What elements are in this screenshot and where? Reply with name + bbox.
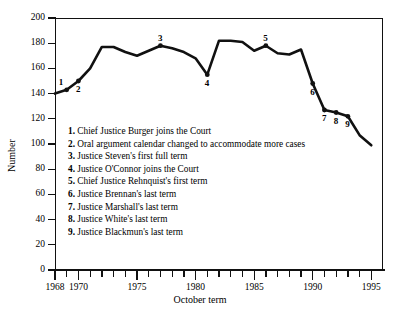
annotation-number: 4 [205, 79, 210, 88]
legend-item-number: 4. [68, 164, 77, 174]
legend-item-number: 8. [68, 214, 77, 224]
legend-item: 7. Justice Marshall's last term [68, 201, 318, 214]
legend-item-number: 2. [68, 139, 77, 149]
legend-item: 8. Justice White's last term [68, 213, 318, 226]
annotation-number: 6 [310, 88, 315, 97]
legend-item-label: Oral argument calendar changed to accomm… [77, 139, 305, 149]
legend-item-number: 6. [68, 189, 77, 199]
legend-item: 6. Justice Brennan's last term [68, 188, 318, 201]
annotation-number: 9 [345, 120, 350, 129]
annotation-number: 3 [158, 34, 163, 43]
legend-item-label: Justice Steven's first full term [77, 151, 187, 161]
legend-item-label: Chief Justice Burger joins the Court [77, 126, 211, 136]
legend-item-number: 3. [68, 151, 77, 161]
legend-item-number: 1. [68, 126, 77, 136]
legend-item-label: Justice O'Connor joins the Court [77, 164, 199, 174]
annotation-number: 2 [76, 85, 81, 94]
legend-item: 2. Oral argument calendar changed to acc… [68, 138, 318, 151]
legend-item-label: Chief Justice Rehnquist's first term [77, 176, 207, 186]
legend-item: 3. Justice Steven's first full term [68, 150, 318, 163]
legend-item-label: Justice White's last term [77, 214, 167, 224]
legend-item: 5. Chief Justice Rehnquist's first term [68, 175, 318, 188]
annotation-number: 1 [59, 78, 64, 87]
legend: 1. Chief Justice Burger joins the Court2… [68, 125, 318, 238]
legend-item-label: Justice Marshall's last term [77, 202, 178, 212]
legend-item-label: Justice Blackmun's last term [77, 227, 183, 237]
annotation-number: 5 [263, 34, 268, 43]
legend-item-label: Justice Brennan's last term [77, 189, 176, 199]
legend-item: 4. Justice O'Connor joins the Court [68, 163, 318, 176]
legend-item: 9. Justice Blackmun's last term [68, 226, 318, 239]
legend-item-number: 9. [68, 227, 77, 237]
annotation-number: 8 [334, 117, 339, 126]
annotation-number: 7 [322, 114, 327, 123]
legend-item-number: 5. [68, 176, 77, 186]
legend-item-number: 7. [68, 202, 77, 212]
chart-container: 020406080100120140160180200 Number 19681… [0, 0, 400, 309]
legend-item: 1. Chief Justice Burger joins the Court [68, 125, 318, 138]
